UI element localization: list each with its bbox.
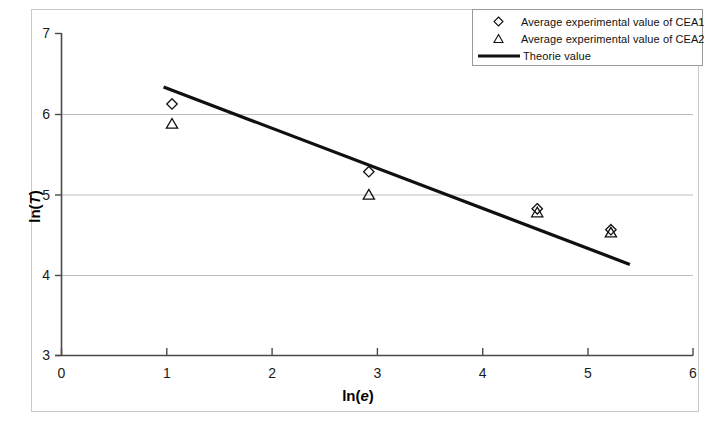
legend-label-cea1: Average experimental value of CEA1 <box>521 16 705 28</box>
triangle-open-marker-icon <box>476 32 521 45</box>
x-tick-label-1: 1 <box>153 366 181 380</box>
series-cea2-points <box>166 119 616 237</box>
chart-legend: Average experimental value of CEA1 Avera… <box>472 9 703 66</box>
y-tick-label-3: 3 <box>22 348 50 362</box>
y-tick-label-6: 6 <box>22 107 50 121</box>
x-axis-title-suffix: ) <box>369 387 374 404</box>
y-tick-label-7: 7 <box>22 26 50 40</box>
y-axis-title: ln(T) <box>26 167 43 247</box>
y-axis-title-suffix: ) <box>26 190 43 195</box>
x-axis-title-variable: e <box>360 387 368 404</box>
series-cea1-points <box>167 99 616 235</box>
y-axis-title-prefix: ln( <box>26 204 43 222</box>
y-axis <box>55 33 62 356</box>
x-axis-title-prefix: ln( <box>342 387 360 404</box>
x-tick-label-5: 5 <box>574 366 602 380</box>
x-axis-title: ln(e) <box>0 387 716 404</box>
x-tick-label-0: 0 <box>48 366 76 380</box>
x-tick-label-6: 6 <box>679 366 707 380</box>
y-axis-title-variable: T <box>26 195 43 204</box>
solid-line-swatch-icon <box>476 51 523 61</box>
legend-item-theorie-value[interactable]: Theorie value <box>473 47 702 64</box>
chart-figure: 7 6 5 4 3 0 1 2 3 4 5 6 ln(T) ln(e) Aver… <box>0 0 716 421</box>
x-axis <box>55 348 693 356</box>
y-tick-label-4: 4 <box>22 268 50 282</box>
x-tick-label-3: 3 <box>363 366 391 380</box>
x-tick-label-2: 2 <box>258 366 286 380</box>
diamond-open-marker-icon <box>476 15 521 28</box>
legend-label-cea2: Average experimental value of CEA2 <box>521 33 705 45</box>
legend-item-cea2[interactable]: Average experimental value of CEA2 <box>473 30 702 47</box>
x-tick-label-4: 4 <box>469 366 497 380</box>
series-theorie-value-line <box>164 87 630 264</box>
legend-item-cea1[interactable]: Average experimental value of CEA1 <box>473 13 702 30</box>
legend-label-theorie-value: Theorie value <box>523 50 591 62</box>
